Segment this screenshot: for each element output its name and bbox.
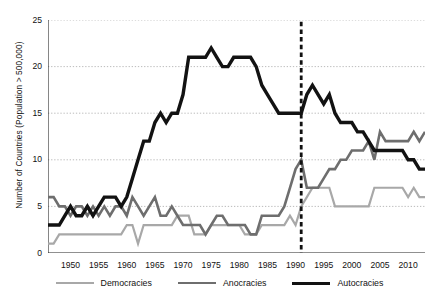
legend-swatch-line-icon xyxy=(178,282,216,284)
chart-legend: DemocraciesAnocraciesAutocracies xyxy=(0,278,439,288)
series-lines xyxy=(48,48,425,244)
axes xyxy=(48,20,425,253)
legend-swatch-line-icon xyxy=(56,282,94,284)
legend-swatch-line-icon xyxy=(292,282,330,285)
gridlines xyxy=(48,20,425,206)
plot-area xyxy=(48,20,425,253)
y-tick-label: 10 xyxy=(20,154,42,164)
y-tick-label: 15 xyxy=(20,108,42,118)
legend-item[interactable]: Democracies xyxy=(56,278,152,288)
x-tick-label: 2010 xyxy=(391,260,425,270)
legend-label: Autocracies xyxy=(337,278,383,288)
y-tick-label: 0 xyxy=(20,248,42,258)
legend-label: Democracies xyxy=(101,278,152,288)
legend-label: Anocracies xyxy=(223,278,267,288)
y-tick-label: 5 xyxy=(20,201,42,211)
legend-item[interactable]: Autocracies xyxy=(292,278,383,288)
y-tick-label: 20 xyxy=(20,61,42,71)
y-tick-label: 25 xyxy=(20,15,42,25)
chart-svg xyxy=(48,20,425,253)
legend-item[interactable]: Anocracies xyxy=(178,278,267,288)
chart-container: Number of Countries (Population > 500,00… xyxy=(0,0,439,305)
y-axis-label: Number of Countries (Population > 500,00… xyxy=(14,20,24,230)
